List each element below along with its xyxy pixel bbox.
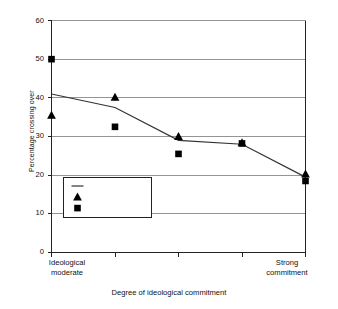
chart-figure: Percentage crossing over 60 50 40 30 20 … bbox=[0, 0, 338, 309]
data-point-democrats bbox=[47, 111, 56, 119]
data-point-republicans bbox=[48, 56, 55, 63]
data-point-republicans bbox=[112, 124, 119, 131]
data-point-republicans bbox=[302, 178, 309, 185]
series-republicans bbox=[48, 56, 309, 184]
series-democrats bbox=[47, 93, 310, 178]
legend-box bbox=[64, 178, 152, 218]
x-axis-ticks bbox=[52, 253, 306, 257]
data-point-democrats bbox=[301, 170, 310, 178]
plot-area bbox=[0, 0, 338, 309]
data-point-democrats bbox=[111, 93, 120, 101]
data-point-republicans bbox=[175, 151, 182, 158]
